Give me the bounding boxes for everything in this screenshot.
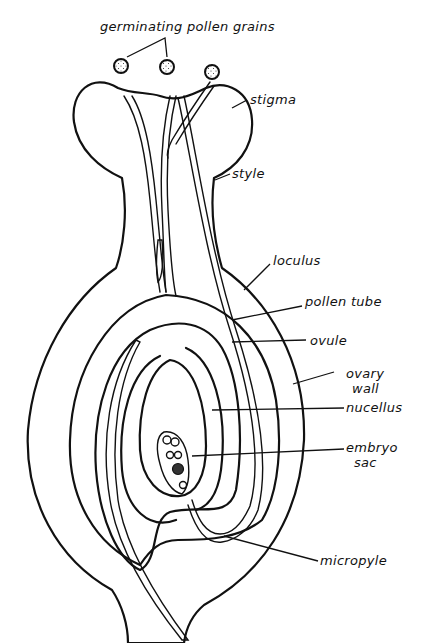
label-loculus: loculus [273,253,321,268]
label-style: style [232,166,265,181]
label-stigma: stigma [250,92,296,107]
label-micropyle: micropyle [320,553,387,568]
label-pollen-tube: pollen tube [304,294,382,309]
funicle [106,340,188,640]
label-nucellus: nucellus [346,400,402,415]
label-embryo-sac-line2: sac [354,455,377,470]
pollen-grains [114,59,219,79]
label-embryo-sac-line1: embryo [346,440,398,455]
label-ovule: ovule [310,333,347,348]
label-germinating-pollen-grains: germinating pollen grains [100,19,275,34]
stylar-canal [124,96,176,296]
embryo-sac [157,432,188,494]
label-ovary-wall-line2: wall [352,381,379,396]
nucellus [140,360,206,496]
loculus-cavity [70,295,279,565]
label-ovary-wall-line1: ovary [346,366,384,381]
pistil-diagram: germinating pollen grains stigma style l… [0,0,425,643]
